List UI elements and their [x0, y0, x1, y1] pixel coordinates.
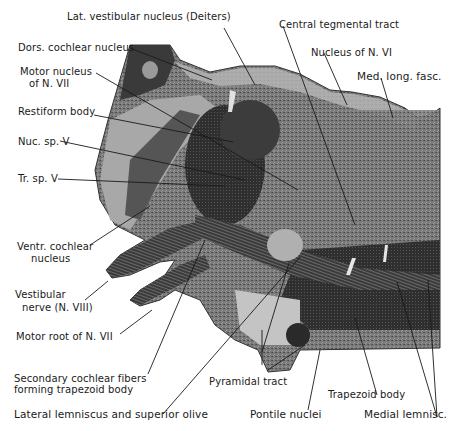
label-dors-cochlear-nucleus: Dors. cochlear nucleus	[18, 42, 134, 53]
label-lat-vestibular-nucleus: Lat. vestibular nucleus (Deiters)	[67, 11, 231, 22]
label-nucleus-n6: Nucleus of N. VI	[311, 47, 392, 58]
label-trapezoid-body: Trapezoid body	[328, 389, 405, 400]
label-pyramidal-tract: Pyramidal tract	[209, 376, 287, 387]
label-lateral-lemniscus: Lateral lemniscus and superior olive	[14, 409, 208, 420]
section-illustration	[0, 0, 463, 431]
label-ventr-cochlear-line2: nucleus	[31, 253, 70, 264]
label-vestibular-nerve-line2: nerve (N. VIII)	[22, 302, 93, 313]
label-motor-root-n7: Motor root of N. VII	[16, 331, 113, 342]
label-pontile-nuclei: Pontile nuclei	[250, 409, 322, 420]
label-ventr-cochlear-line1: Ventr. cochlear	[17, 241, 93, 252]
brainstem-section-figure: Lat. vestibular nucleus (Deiters) Centra…	[0, 0, 463, 431]
label-central-tegmental-tract: Central tegmental tract	[279, 19, 399, 30]
label-motor-nucleus-line1: Motor nucleus	[20, 66, 92, 77]
label-nuc-sp-v: Nuc. sp. V	[18, 136, 69, 147]
label-medial-lemniscus: Medial lemnisc.	[364, 409, 447, 420]
label-restiform-body: Restiform body	[18, 106, 95, 117]
label-motor-nucleus-line2: of N. VII	[29, 78, 69, 89]
label-vestibular-nerve-line1: Vestibular	[15, 289, 66, 300]
label-tr-sp-v: Tr. sp. V	[18, 173, 58, 184]
label-secondary-cochlear-line1: Secondary cochlear fibers	[14, 373, 147, 384]
label-secondary-cochlear-line2: forming trapezoid body	[14, 384, 133, 395]
label-med-long-fasc: Med. long. fasc.	[357, 71, 442, 82]
